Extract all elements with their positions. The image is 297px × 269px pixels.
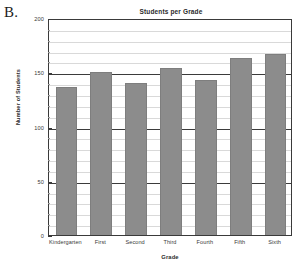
y-tick-mark-minor: [48, 117, 50, 118]
y-tick-mark-minor: [48, 193, 50, 194]
x-tick-label-fourth: Fourth: [187, 239, 222, 245]
y-tick-mark: [48, 19, 52, 20]
y-tick-mark-minor: [48, 62, 50, 63]
bar-fourth: [195, 80, 217, 235]
y-tick-mark-minor: [48, 41, 50, 42]
x-tick-label-fifth: Fifth: [222, 239, 257, 245]
y-tick-label: 150: [16, 70, 44, 76]
gridline-minor: [49, 42, 291, 43]
y-tick-mark-minor: [48, 160, 50, 161]
bar-second: [125, 83, 147, 235]
x-tick-label-kindergarten: Kindergarten: [48, 239, 83, 245]
y-tick-mark-minor: [48, 138, 50, 139]
y-tick-label: 200: [16, 16, 44, 22]
y-tick-mark: [48, 73, 52, 74]
chart-title: Students per Grade: [48, 8, 294, 15]
y-tick-mark-minor: [48, 214, 50, 215]
y-tick-mark-minor: [48, 225, 50, 226]
bar-third: [160, 68, 182, 235]
bar-first: [90, 72, 112, 235]
y-tick-label: 0: [16, 233, 44, 239]
y-tick-mark: [48, 128, 52, 129]
y-tick-mark-minor: [48, 171, 50, 172]
y-axis-label: Number of Students: [15, 49, 21, 145]
y-tick-label: 100: [16, 125, 44, 131]
y-tick-mark-minor: [48, 84, 50, 85]
bar-fifth: [230, 58, 252, 235]
y-tick-mark-minor: [48, 203, 50, 204]
x-tick-label-first: First: [83, 239, 118, 245]
y-tick-mark: [48, 236, 52, 237]
y-tick-mark-minor: [48, 30, 50, 31]
gridline-minor: [49, 53, 291, 54]
y-tick-label: 50: [16, 179, 44, 185]
gridline-minor: [49, 63, 291, 64]
x-tick-label-third: Third: [153, 239, 188, 245]
x-tick-label-second: Second: [118, 239, 153, 245]
y-tick-mark-minor: [48, 52, 50, 53]
bar-sixth: [265, 54, 287, 235]
y-tick-mark-minor: [48, 95, 50, 96]
gridline-minor: [49, 31, 291, 32]
x-axis-label: Grade: [48, 254, 292, 260]
y-tick-mark: [48, 182, 52, 183]
y-tick-mark-minor: [48, 149, 50, 150]
plot-area: [48, 19, 292, 236]
bar-chart: Students per Grade Number of Students Gr…: [0, 0, 297, 269]
bar-kindergarten: [56, 87, 78, 235]
y-tick-mark-minor: [48, 106, 50, 107]
x-tick-label-sixth: Sixth: [257, 239, 292, 245]
